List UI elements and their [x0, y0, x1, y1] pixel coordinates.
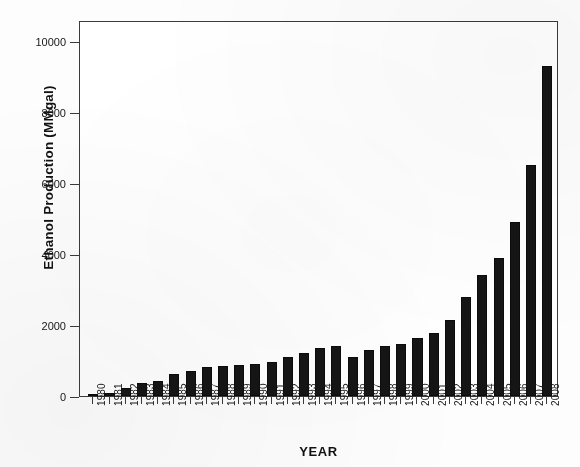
x-tick-label: 1989: [242, 383, 253, 406]
bar: [461, 297, 471, 396]
y-tick-mark: [70, 326, 79, 327]
x-tick-label: 1992: [291, 383, 302, 406]
y-tick-mark: [70, 255, 79, 256]
x-tick-mark: [384, 397, 385, 404]
x-tick-mark: [368, 397, 369, 404]
x-tick-label: 1993: [307, 383, 318, 406]
x-tick-label: 2000: [420, 383, 431, 406]
bar: [494, 258, 504, 396]
x-tick-mark: [481, 397, 482, 404]
x-tick-label: 2002: [453, 383, 464, 406]
x-tick-label: 2003: [469, 383, 480, 406]
x-tick-mark: [465, 397, 466, 404]
bar: [477, 275, 487, 396]
bar-series: [80, 22, 557, 396]
x-tick-label: 2001: [437, 383, 448, 406]
x-tick-mark: [449, 397, 450, 404]
x-tick-mark: [498, 397, 499, 404]
x-tick-label: 1998: [388, 383, 399, 406]
x-tick-label: 1985: [177, 383, 188, 406]
x-tick-label: 1991: [275, 383, 286, 406]
x-tick-label: 1980: [96, 383, 107, 406]
x-tick-label: 1990: [258, 383, 269, 406]
y-tick-mark: [70, 397, 79, 398]
x-tick-mark: [125, 397, 126, 404]
plot-area: [79, 21, 558, 397]
x-tick-mark: [530, 397, 531, 404]
x-tick-mark: [254, 397, 255, 404]
x-tick-mark: [546, 397, 547, 404]
x-tick-mark: [173, 397, 174, 404]
x-tick-mark: [303, 397, 304, 404]
bar: [510, 222, 520, 396]
x-tick-mark: [416, 397, 417, 404]
y-tick-label: 2000: [14, 320, 66, 332]
x-tick-label: 1987: [210, 383, 221, 406]
x-tick-label: 1997: [372, 383, 383, 406]
y-tick-mark: [70, 42, 79, 43]
x-tick-label: 1999: [404, 383, 415, 406]
x-tick-label: 2005: [502, 383, 513, 406]
x-tick-mark: [400, 397, 401, 404]
x-tick-mark: [433, 397, 434, 404]
x-tick-label: 2006: [518, 383, 529, 406]
y-tick-label: 8000: [14, 107, 66, 119]
x-tick-label: 1986: [194, 383, 205, 406]
y-tick-label: 10000: [14, 36, 66, 48]
x-tick-mark: [514, 397, 515, 404]
x-tick-mark: [190, 397, 191, 404]
y-tick-mark: [70, 113, 79, 114]
x-tick-mark: [238, 397, 239, 404]
x-tick-mark: [287, 397, 288, 404]
y-tick-label: 6000: [14, 178, 66, 190]
x-tick-label: 1988: [226, 383, 237, 406]
y-tick-label: 0: [14, 391, 66, 403]
x-tick-mark: [109, 397, 110, 404]
x-tick-label: 1995: [339, 383, 350, 406]
y-tick-label: 4000: [14, 249, 66, 261]
x-tick-mark: [319, 397, 320, 404]
x-tick-label: 1981: [113, 383, 124, 406]
x-tick-label: 2007: [534, 383, 545, 406]
x-tick-mark: [352, 397, 353, 404]
x-tick-label: 2008: [550, 383, 561, 406]
bar: [542, 66, 552, 396]
x-tick-label: 2004: [485, 383, 496, 406]
chart-figure: Ethanol Production (MMgal) 0200040006000…: [0, 0, 580, 467]
x-tick-mark: [141, 397, 142, 404]
x-tick-mark: [92, 397, 93, 404]
x-axis-title: YEAR: [79, 444, 558, 459]
bar: [526, 165, 536, 396]
x-tick-mark: [206, 397, 207, 404]
x-tick-label: 1982: [129, 383, 140, 406]
x-tick-mark: [157, 397, 158, 404]
x-tick-mark: [271, 397, 272, 404]
x-tick-mark: [335, 397, 336, 404]
x-tick-label: 1984: [161, 383, 172, 406]
x-tick-label: 1994: [323, 383, 334, 406]
y-tick-mark: [70, 184, 79, 185]
x-tick-label: 1983: [145, 383, 156, 406]
x-tick-label: 1996: [356, 383, 367, 406]
x-tick-mark: [222, 397, 223, 404]
